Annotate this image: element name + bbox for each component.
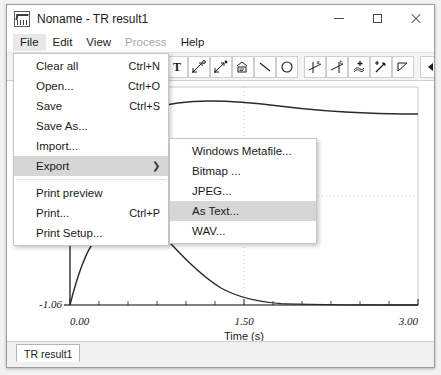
menu-item-windows-metafile[interactable]: Windows Metafile... xyxy=(170,141,316,161)
toolbar-group-markers: a b xyxy=(304,55,414,79)
menu-item-label: Export xyxy=(36,160,69,172)
add-trace-icon[interactable] xyxy=(348,56,370,78)
add-cursor-icon[interactable] xyxy=(370,56,392,78)
close-icon xyxy=(410,13,421,24)
file-menu: Clear all Ctrl+N Open... Ctrl+O Save Ctr… xyxy=(13,53,169,246)
screen-root: Noname - TR result1 File Edit View Proce… xyxy=(0,0,441,375)
sheet-tab-strip: TR result1 xyxy=(7,341,435,367)
menu-item-label: JPEG... xyxy=(192,185,232,197)
menu-item-label: Windows Metafile... xyxy=(192,145,292,157)
menu-item-label: Import... xyxy=(36,140,78,152)
waveform-app-icon xyxy=(14,11,30,27)
menu-item-open[interactable]: Open... Ctrl+O xyxy=(14,76,168,96)
menu-separator xyxy=(16,179,166,180)
menu-item-import[interactable]: Import... xyxy=(14,136,168,156)
menu-item-label: Print Setup... xyxy=(36,227,102,239)
sheet-tab-tr-result1[interactable]: TR result1 xyxy=(16,344,80,362)
menu-item-accelerator: Ctrl+S xyxy=(129,100,160,112)
line-tool-icon[interactable] xyxy=(254,56,276,78)
menu-item-as-text[interactable]: As Text... xyxy=(170,201,316,221)
menu-item-label: Save xyxy=(36,100,62,112)
menubar-item-edit[interactable]: Edit xyxy=(46,34,80,51)
menu-item-label: Bitmap ... xyxy=(192,165,241,177)
menubar-item-process: Process xyxy=(118,34,174,51)
menu-item-label: Open... xyxy=(36,80,74,92)
menu-item-accelerator: Ctrl+P xyxy=(129,207,160,219)
menu-item-accelerator: Ctrl+O xyxy=(128,80,160,92)
menubar-item-help[interactable]: Help xyxy=(174,34,212,51)
export-submenu: Windows Metafile... Bitmap ... JPEG... A… xyxy=(169,138,317,244)
x-tick-label-0: 0.00 xyxy=(70,315,90,327)
menu-item-save-as[interactable]: Save As... xyxy=(14,116,168,136)
maximize-button[interactable] xyxy=(358,5,396,32)
menu-item-export[interactable]: Export ❯ xyxy=(14,156,168,176)
maximize-icon xyxy=(373,14,382,23)
menu-bar: File Edit View Process Help xyxy=(7,32,434,53)
title-bar: Noname - TR result1 xyxy=(7,5,434,32)
menu-item-accelerator: Ctrl+N xyxy=(129,60,160,72)
menu-item-label: WAV... xyxy=(192,225,225,237)
menubar-item-file[interactable]: File xyxy=(13,34,46,51)
menubar-item-view[interactable]: View xyxy=(79,34,118,51)
menu-item-print-preview[interactable]: Print preview xyxy=(14,183,168,203)
menu-item-label: Print preview xyxy=(36,187,102,199)
menu-item-clear-all[interactable]: Clear all Ctrl+N xyxy=(14,56,168,76)
arrow-annotation-filled-icon[interactable] xyxy=(210,56,232,78)
scroll-left-icon[interactable] xyxy=(420,56,435,78)
menu-item-label: Print... xyxy=(36,207,69,219)
menu-item-label: Clear all xyxy=(36,60,78,72)
x-tick-label-1: 1.50 xyxy=(234,315,254,327)
text-tool-icon[interactable]: T xyxy=(166,56,188,78)
svg-text:b: b xyxy=(340,59,343,65)
minimize-button[interactable] xyxy=(320,5,358,32)
arrow-annotation-icon[interactable] xyxy=(188,56,210,78)
close-button[interactable] xyxy=(396,5,434,32)
label-box-icon[interactable] xyxy=(232,56,254,78)
minimize-icon xyxy=(334,18,344,19)
toolbar-group-annotation: T xyxy=(166,55,298,79)
marker-b-icon[interactable]: b xyxy=(326,56,348,78)
menu-item-print[interactable]: Print... Ctrl+P xyxy=(14,203,168,223)
zoom-region-icon[interactable] xyxy=(392,56,414,78)
x-tick-label-2: 3.00 xyxy=(398,315,419,327)
y-tick-label-min: -1.06 xyxy=(39,298,62,310)
menu-item-save[interactable]: Save Ctrl+S xyxy=(14,96,168,116)
toolbar-group-navigation xyxy=(420,55,435,79)
chevron-right-icon: ❯ xyxy=(152,161,160,171)
ellipse-tool-icon[interactable] xyxy=(276,56,298,78)
window-controls xyxy=(320,5,434,32)
menu-item-bitmap[interactable]: Bitmap ... xyxy=(170,161,316,181)
menu-item-jpeg[interactable]: JPEG... xyxy=(170,181,316,201)
window-title: Noname - TR result1 xyxy=(37,12,148,26)
menu-item-print-setup[interactable]: Print Setup... xyxy=(14,223,168,243)
svg-text:T: T xyxy=(173,60,181,74)
application-window: Noname - TR result1 File Edit View Proce… xyxy=(6,4,435,368)
menu-item-label: As Text... xyxy=(192,205,239,217)
menu-item-label: Save As... xyxy=(36,120,88,132)
marker-a-icon[interactable]: a xyxy=(304,56,326,78)
menu-item-wav[interactable]: WAV... xyxy=(170,221,316,241)
